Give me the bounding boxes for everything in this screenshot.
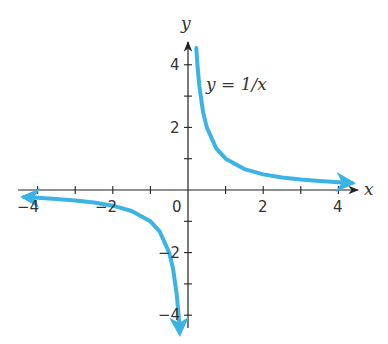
x-tick-label-neg4: −4 xyxy=(17,198,39,216)
curve-branch-positive xyxy=(196,48,352,183)
x-tick-label-2: 2 xyxy=(258,198,268,216)
origin-label: 0 xyxy=(172,198,182,216)
y-tick-label-4: 4 xyxy=(170,56,180,74)
y-tick-label-2: 2 xyxy=(170,119,180,137)
chart-figure: x y y = 1/x −4 −2 0 2 4 4 2 −2 −4 xyxy=(0,0,388,344)
x-axis-label: x xyxy=(364,179,374,199)
curve-branch-negative xyxy=(38,197,224,332)
y-tick-label-neg4: −4 xyxy=(158,306,180,324)
curve-branch-negative-drawn xyxy=(24,197,180,332)
y-axis-label: y xyxy=(180,13,191,33)
equation-label: y = 1/x xyxy=(205,74,267,94)
y-tick-label-neg2: −2 xyxy=(158,244,180,262)
x-tick-label-neg2: −2 xyxy=(95,198,117,216)
x-tick-label-4: 4 xyxy=(333,198,343,216)
hyperbola-plot: x y y = 1/x −4 −2 0 2 4 4 2 −2 −4 xyxy=(0,0,388,344)
